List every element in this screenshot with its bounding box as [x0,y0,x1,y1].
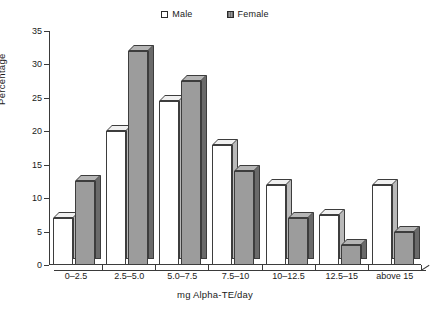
y-tick-label: 20 [32,127,42,136]
x-axis-title: mg Alpha-TE/day [0,289,430,300]
bar-group [53,31,106,265]
x-tick [262,265,263,270]
bar-front-face [319,215,339,265]
bar-front-face [394,232,414,265]
bar-front-face [266,185,286,265]
x-tick-label: 5.0–7.5 [167,272,197,281]
legend-label-female: Female [238,10,269,19]
legend-swatch-female-icon [227,11,234,18]
bar-side-face [201,75,207,259]
y-tick-label: 15 [32,161,42,170]
x-tick [368,265,369,270]
bar-front-face [341,245,361,265]
bar-front-face [234,171,254,265]
bar-front-face [53,218,73,265]
bar-groups [49,31,421,265]
y-tick-label: 30 [32,60,42,69]
x-axis-labels: 0–2.52.5–5.05.0–7.57.5–1010–12.512.5–15a… [49,272,421,288]
bar-side-face [95,175,101,259]
bar-front-face [372,185,392,265]
bar-group [212,31,265,265]
bar-group [266,31,319,265]
legend-item-female: Female [227,10,269,19]
legend-swatch-male-icon [161,11,168,18]
y-tick-label: 5 [37,228,42,237]
chart-legend: Male Female [0,10,430,19]
x-tick-label: 2.5–5.0 [114,272,144,281]
bar-side-face [148,45,154,259]
y-axis-title: Percentage [0,53,7,105]
y-tick [44,265,49,266]
x-tick-label: 10–12.5 [272,272,305,281]
x-tick-label: 12.5–15 [325,272,358,281]
x-tick-label: 0–2.5 [65,272,88,281]
bar-group [319,31,372,265]
bar-group [159,31,212,265]
y-tick-label: 25 [32,94,42,103]
x-tick [208,265,209,270]
legend-item-male: Male [161,10,192,19]
bar-front-face [288,218,308,265]
y-tick-label: 35 [32,27,42,36]
x-tick-label: 7.5–10 [222,272,250,281]
x-tick [155,265,156,270]
x-tick [315,265,316,270]
bar-front-face [106,131,126,265]
y-tick-label: 10 [32,194,42,203]
bar-front-face [181,81,201,265]
bar-front-face [128,51,148,265]
legend-label-male: Male [172,10,192,19]
y-tick-label: 0 [37,261,42,270]
bar-front-face [159,101,179,265]
bar-side-face [308,212,314,259]
bar-chart: Male Female Percentage 05101520253035 0–… [0,0,430,314]
bar-group [106,31,159,265]
bar-front-face [75,181,95,265]
x-tick [421,265,422,270]
plot-area: 05101520253035 [49,31,421,265]
bar-front-face [212,145,232,265]
bar-group [372,31,425,265]
bar-side-face [254,165,260,259]
x-tick-label: above 15 [376,272,413,281]
x-tick [102,265,103,270]
